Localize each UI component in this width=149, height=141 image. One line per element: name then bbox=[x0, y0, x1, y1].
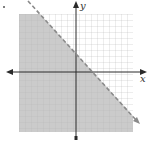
inequality-graph: y x bbox=[0, 0, 149, 141]
x-axis-label: x bbox=[140, 73, 146, 84]
y-axis-top-arrow bbox=[73, 1, 79, 8]
bullet-dot bbox=[3, 6, 5, 8]
y-axis-label: y bbox=[79, 0, 86, 11]
x-axis-left-arrow bbox=[6, 69, 13, 75]
y-axis-bottom-end bbox=[75, 136, 78, 140]
